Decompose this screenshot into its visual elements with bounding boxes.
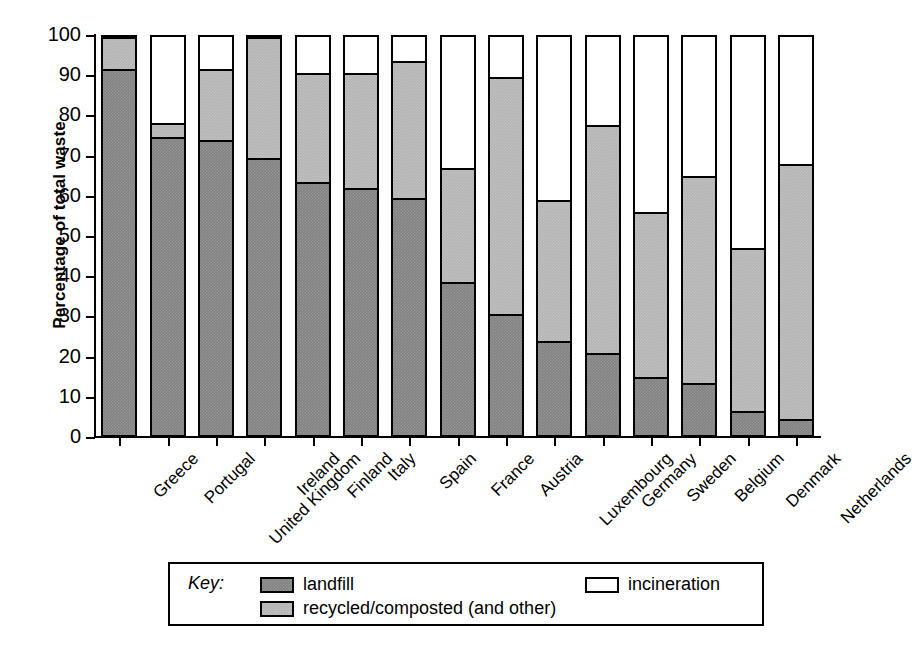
- bar-ireland[interactable]: [246, 35, 282, 437]
- legend-label-incineration: incineration: [628, 574, 720, 595]
- bar-segment-incineration: [200, 37, 232, 69]
- legend-item-incineration: incineration: [585, 574, 720, 595]
- y-axis-tick-label: 20: [59, 345, 81, 367]
- bar-segment-incineration: [683, 37, 715, 176]
- bar-segment-recycled: [587, 125, 619, 354]
- bar-germany[interactable]: [585, 35, 621, 437]
- bar-italy[interactable]: [343, 35, 379, 437]
- bar-segment-landfill: [490, 314, 522, 435]
- bar-united-kingdom[interactable]: [198, 35, 234, 437]
- bar-segment-incineration: [345, 37, 377, 73]
- bar-segment-landfill: [248, 158, 280, 435]
- x-axis-tick-mark: [651, 437, 653, 446]
- x-axis-tick-mark: [796, 437, 798, 446]
- x-axis-label-denmark: Denmark: [782, 449, 844, 511]
- bar-segment-incineration: [780, 37, 812, 164]
- legend-swatch-landfill-icon: [260, 577, 294, 593]
- x-axis-label-greece: Greece: [149, 449, 202, 502]
- x-axis-tick-mark: [168, 437, 170, 446]
- y-axis-tick-label: 90: [59, 63, 81, 85]
- bar-denmark[interactable]: [730, 35, 766, 437]
- bar-portugal[interactable]: [150, 35, 186, 437]
- bar-austria[interactable]: [488, 35, 524, 437]
- bar-segment-landfill: [297, 182, 329, 435]
- bar-segment-recycled: [490, 77, 522, 314]
- x-axis-label-ireland: Ireland: [293, 449, 343, 499]
- x-axis-tick-mark: [361, 437, 363, 446]
- bar-spain[interactable]: [391, 35, 427, 437]
- bar-segment-recycled: [683, 176, 715, 383]
- x-axis-label-netherlands: Netherlands: [837, 449, 915, 527]
- legend-swatch-recycled-icon: [260, 601, 294, 617]
- bar-segment-landfill: [103, 69, 135, 435]
- x-axis-tick-mark: [603, 437, 605, 446]
- bar-segment-recycled: [248, 37, 280, 158]
- x-axis-label-germany: Germany: [637, 449, 700, 512]
- bar-luxembourg[interactable]: [536, 35, 572, 437]
- bar-france[interactable]: [440, 35, 476, 437]
- x-axis-label-austria: Austria: [535, 449, 586, 500]
- x-axis-tick-mark: [409, 437, 411, 446]
- y-axis-tick-label: 50: [59, 224, 81, 246]
- y-axis-tick-label: 10: [59, 385, 81, 407]
- bar-segment-landfill: [152, 137, 184, 436]
- bar-segment-recycled: [635, 212, 667, 377]
- bar-segment-incineration: [297, 37, 329, 73]
- x-axis-tick-mark: [119, 437, 121, 446]
- bar-segment-recycled: [200, 69, 232, 141]
- bar-segment-recycled: [538, 200, 570, 341]
- bar-segment-incineration: [635, 37, 667, 212]
- bar-segment-incineration: [152, 37, 184, 123]
- x-axis-tick-mark: [458, 437, 460, 446]
- bar-segment-incineration: [442, 37, 474, 168]
- x-axis-tick-mark: [748, 437, 750, 446]
- bar-segment-landfill: [200, 140, 232, 435]
- bar-segment-landfill: [635, 377, 667, 435]
- y-axis-tick-label: 30: [59, 304, 81, 326]
- x-axis-label-spain: Spain: [436, 449, 480, 493]
- y-axis: 0102030405060708090100: [0, 35, 95, 437]
- bar-segment-incineration: [732, 37, 764, 248]
- bar-belgium[interactable]: [681, 35, 717, 437]
- bar-segment-recycled: [732, 248, 764, 411]
- bar-segment-incineration: [490, 37, 522, 77]
- y-axis-tick-label: 60: [59, 184, 81, 206]
- x-axis-tick-mark: [313, 437, 315, 446]
- bar-segment-recycled: [345, 73, 377, 188]
- x-axis-label-belgium: Belgium: [731, 449, 788, 506]
- x-axis-label-france: France: [487, 449, 538, 500]
- y-axis-tick-label: 100: [48, 23, 81, 45]
- legend-key-label: Key:: [188, 573, 224, 594]
- bar-segment-incineration: [538, 37, 570, 200]
- legend-swatch-incineration-icon: [585, 577, 619, 593]
- bar-segment-landfill: [442, 282, 474, 435]
- bar-finland[interactable]: [295, 35, 331, 437]
- x-axis-label-finland: Finland: [343, 449, 396, 502]
- x-axis-tick-mark: [264, 437, 266, 446]
- bar-sweden[interactable]: [633, 35, 669, 437]
- bar-segment-recycled: [780, 164, 812, 419]
- legend-label-recycled: recycled/composted (and other): [303, 598, 556, 619]
- bar-segment-recycled: [297, 73, 329, 182]
- bar-segment-incineration: [393, 37, 425, 61]
- legend: Key: landfill recycled/composted (and ot…: [168, 562, 764, 626]
- legend-item-recycled: recycled/composted (and other): [260, 598, 556, 619]
- bar-segment-recycled: [103, 37, 135, 69]
- x-axis-label-portugal: Portugal: [200, 449, 258, 507]
- bar-netherlands[interactable]: [778, 35, 814, 437]
- bar-segment-landfill: [683, 383, 715, 435]
- bar-segment-landfill: [732, 411, 764, 435]
- x-axis-tick-mark: [216, 437, 218, 446]
- bar-segment-incineration: [587, 37, 619, 125]
- x-axis-label-italy: Italy: [384, 449, 419, 484]
- x-axis-tick-mark: [554, 437, 556, 446]
- y-axis-tick-label: 70: [59, 144, 81, 166]
- bar-greece[interactable]: [101, 35, 137, 437]
- x-axis-label-luxembourg: Luxembourg: [596, 449, 676, 529]
- y-axis-tick-label: 80: [59, 103, 81, 125]
- y-axis-tick-label: 40: [59, 264, 81, 286]
- plot-area: [95, 35, 820, 437]
- bar-segment-recycled: [152, 123, 184, 137]
- bar-segment-landfill: [393, 198, 425, 435]
